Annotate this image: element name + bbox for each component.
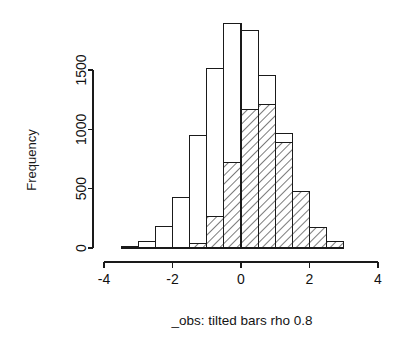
- y-tick-label-1: 500: [73, 177, 89, 201]
- tilted-bar-bin-4: [190, 244, 207, 248]
- y-axis-title: Frequency: [24, 129, 39, 191]
- tilted-bar-bin-3: [173, 248, 190, 249]
- tilted-bar-bin-8: [258, 104, 275, 248]
- x-axis-title: _obs: tilted bars rho 0.8: [170, 313, 312, 328]
- x-tick-label-3: 2: [306, 271, 314, 287]
- tilted-bar-bin-11: [310, 227, 327, 248]
- tilted-bar-bin-10: [292, 192, 309, 248]
- x-tick-label-1: -2: [166, 271, 179, 287]
- histogram-figure: 050010001500 -4-2024 Frequency _obs: til…: [0, 0, 411, 352]
- open-bar-bin-4: [190, 136, 207, 248]
- open-bar-bin-1: [138, 241, 155, 248]
- open-bar-bin-3: [173, 198, 190, 248]
- tilted-bar-bin-12: [327, 241, 344, 248]
- y-tick-label-2: 1000: [73, 114, 89, 145]
- open-bar-bin-2: [155, 226, 172, 248]
- tilted-bar-bin-0: [121, 248, 138, 249]
- x-tick-label-2: 0: [237, 271, 245, 287]
- x-tick-label-0: -4: [98, 271, 111, 287]
- tilted-bar-bin-1: [138, 248, 155, 249]
- tilted-bar-bin-2: [155, 248, 172, 249]
- histogram-plot: 050010001500 -4-2024 Frequency _obs: til…: [0, 0, 411, 352]
- y-tick-label-3: 1500: [73, 54, 89, 85]
- tilted-bar-bin-6: [224, 163, 241, 248]
- tilted-bar-bin-9: [275, 142, 292, 248]
- x-tick-label-4: 4: [374, 271, 382, 287]
- tilted-bar-bin-7: [241, 110, 258, 248]
- tilted-bar-bin-5: [207, 217, 224, 248]
- y-tick-label-0: 0: [73, 244, 89, 252]
